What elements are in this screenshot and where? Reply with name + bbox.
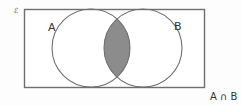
set-b-label: B <box>174 20 182 33</box>
universal-set-mark: ℰ <box>14 7 18 15</box>
venn-diagram: ℰ A B A ∩ B <box>0 0 242 106</box>
caption-label: A ∩ B <box>210 91 238 102</box>
set-a-label: A <box>48 21 56 34</box>
